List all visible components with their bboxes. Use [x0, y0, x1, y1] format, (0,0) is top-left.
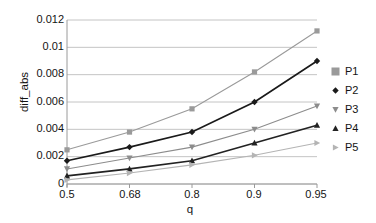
data-point-marker	[252, 152, 258, 158]
legend-label: P5	[345, 142, 358, 153]
chart-legend: P1 P2 P3 P4 P5	[330, 62, 376, 157]
legend-item-p5[interactable]: P5	[330, 138, 376, 157]
x-tick-label: 0.68	[102, 188, 158, 200]
legend-item-p1[interactable]: P1	[330, 62, 376, 81]
legend-label: P2	[345, 85, 358, 96]
legend-item-p3[interactable]: P3	[330, 100, 376, 119]
x-tick-label: 0.9	[226, 188, 282, 200]
legend-label: P3	[345, 104, 358, 115]
data-point-marker	[64, 158, 70, 164]
legend-label: P4	[345, 123, 358, 134]
x-tick-label: 0.8	[164, 188, 220, 200]
data-point-marker	[314, 122, 320, 128]
diamond-icon	[330, 85, 341, 96]
data-point-marker	[252, 69, 257, 74]
data-point-marker	[64, 166, 70, 172]
chart-figure: diff_abs 0.012 0.01 0.008 0.006 0.004 0.…	[0, 0, 376, 223]
triangle-right-icon	[330, 142, 341, 153]
legend-label: P1	[345, 66, 358, 77]
triangle-up-icon	[330, 123, 341, 134]
data-point-marker	[189, 106, 194, 111]
data-point-marker	[314, 28, 319, 33]
x-tick-label: 0.95	[288, 188, 344, 200]
x-tick-label: 0.5	[39, 188, 95, 200]
square-icon	[330, 66, 341, 77]
data-point-marker	[64, 147, 69, 152]
legend-item-p2[interactable]: P2	[330, 81, 376, 100]
data-point-marker	[314, 140, 320, 146]
legend-item-p4[interactable]: P4	[330, 119, 376, 138]
triangle-down-icon	[330, 104, 341, 115]
x-axis-title: q	[150, 203, 230, 215]
data-point-marker	[126, 144, 132, 150]
data-point-marker	[127, 129, 132, 134]
